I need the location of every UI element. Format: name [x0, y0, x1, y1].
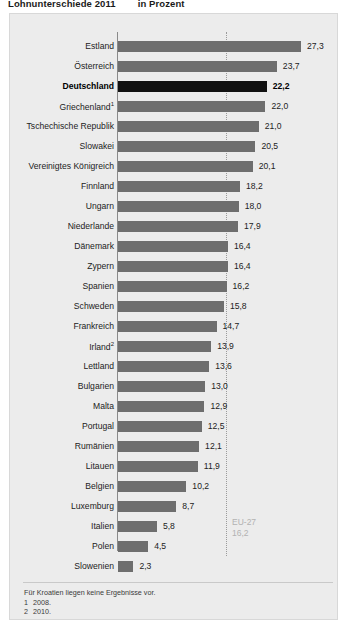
bar: [118, 481, 186, 492]
footnote-1-number: 1: [24, 598, 33, 608]
bar-value-label: 20,1: [259, 161, 276, 171]
bar-value-label: 15,8: [230, 301, 247, 311]
table-row: Dänemark16,4: [10, 236, 339, 256]
footnote-marker: 1: [111, 101, 114, 107]
plot-area: EU-27 16,2 Estland27,3Österreich23,7Deut…: [10, 14, 339, 562]
bar-value-label: 16,2: [233, 281, 250, 291]
bar: [118, 161, 253, 172]
bar: [118, 121, 259, 132]
bar-value-label: 21,0: [265, 121, 282, 131]
bar-value-label: 22,0: [271, 101, 288, 111]
table-row: Ungarn18,0: [10, 196, 339, 216]
bar-value-label: 13,9: [217, 341, 234, 351]
bar-category-label: Portugal: [82, 421, 114, 431]
bar-category-label: Irland2: [89, 341, 114, 352]
table-row: Italien5,8: [10, 516, 339, 536]
table-row: Portugal12,5: [10, 416, 339, 436]
bar-value-label: 11,9: [204, 461, 220, 471]
bar-value-label: 14,7: [223, 321, 240, 331]
bar-category-label: Schweden: [74, 301, 114, 311]
table-row: Finnland18,2: [10, 176, 339, 196]
footnotes-block: Für Kroatien liegen keine Ergebnisse vor…: [24, 588, 155, 617]
bar: [118, 41, 301, 52]
bar-value-label: 10,2: [192, 481, 209, 491]
bar-value-label: 27,3: [307, 41, 324, 51]
bar: [118, 381, 205, 392]
table-row: Frankreich14,7: [10, 316, 339, 336]
bar-value-label: 5,8: [163, 521, 175, 531]
title-unit-label: in Prozent: [138, 0, 185, 9]
bar-category-label: Slowakei: [80, 141, 114, 151]
bar-category-label: Litauen: [86, 461, 114, 471]
bar-category-label: Lettland: [83, 361, 114, 371]
bar-value-label: 13,6: [215, 361, 232, 371]
table-row: Tschechische Republik21,0: [10, 116, 339, 136]
bar: [118, 201, 239, 212]
bar-value-label: 17,9: [244, 221, 261, 231]
footnote-item-1: 12008.: [24, 598, 155, 608]
bar: [118, 181, 240, 192]
footnote-2-number: 2: [24, 607, 33, 617]
bar: [118, 101, 265, 112]
table-row: Schweden15,8: [10, 296, 339, 316]
bar: [118, 281, 227, 292]
bar-category-label: Italien: [91, 521, 114, 531]
footnote-1-text: 2008.: [33, 598, 51, 607]
table-row: Irland213,9: [10, 336, 339, 356]
bar-category-label: Bulgarien: [78, 381, 114, 391]
footnote-item-2: 22010.: [24, 607, 155, 617]
bar-value-label: 22,2: [273, 81, 290, 91]
bar: [118, 341, 211, 352]
table-row: Luxemburg8,7: [10, 496, 339, 516]
footer-divider: [23, 582, 333, 583]
bar: [118, 421, 202, 432]
bar-category-label: Tschechische Republik: [27, 121, 114, 131]
table-row: Slowenien2,3: [10, 556, 339, 576]
bar-value-label: 12,1: [205, 441, 222, 451]
bar-category-label: Spanien: [82, 281, 114, 291]
table-row: Slowakei20,5: [10, 136, 339, 156]
table-row: Niederlande17,9: [10, 216, 339, 236]
bar-category-label: Slowenien: [74, 561, 114, 571]
bar-category-label: Belgien: [85, 481, 114, 491]
table-row: Lettland13,6: [10, 356, 339, 376]
bar-category-label: Griechenland1: [60, 101, 114, 112]
bar-value-label: 18,2: [246, 181, 263, 191]
table-row: Vereinigtes Königreich20,1: [10, 156, 339, 176]
bar-value-label: 16,4: [234, 261, 251, 271]
chart-screenshot: Lohnunterschiede 2011 in Prozent EU-27 1…: [0, 0, 347, 633]
bar: [118, 501, 176, 512]
bar-category-label: Zypern: [87, 261, 114, 271]
table-row: Bulgarien13,0: [10, 376, 339, 396]
bar-category-label: Estland: [85, 41, 114, 51]
bar-category-label: Frankreich: [73, 321, 114, 331]
bar-value-label: 20,5: [261, 141, 278, 151]
bar: [118, 61, 277, 72]
bar-value-label: 4,5: [154, 541, 166, 551]
bar: [118, 561, 133, 572]
bar-value-label: 13,0: [211, 381, 228, 391]
bar: [118, 81, 267, 92]
bar: [118, 321, 217, 332]
bar: [118, 401, 204, 412]
footnote-2-text: 2010.: [33, 607, 51, 616]
bar-category-label: Österreich: [74, 61, 114, 71]
bar: [118, 241, 228, 252]
bar-category-label: Rumänien: [75, 441, 114, 451]
bar-value-label: 12,9: [210, 401, 227, 411]
table-row: Belgien10,2: [10, 476, 339, 496]
table-row: Litauen11,9: [10, 456, 339, 476]
bar: [118, 521, 157, 532]
chart-panel: EU-27 16,2 Estland27,3Österreich23,7Deut…: [9, 13, 338, 620]
bar-category-label: Vereinigtes Königreich: [28, 161, 114, 171]
bar: [118, 461, 198, 472]
bar: [118, 441, 199, 452]
table-row: Malta12,9: [10, 396, 339, 416]
footnote-note: Für Kroatien liegen keine Ergebnisse vor…: [24, 588, 155, 598]
bar-value-label: 18,0: [245, 201, 262, 211]
bar: [118, 301, 224, 312]
table-row: Rumänien12,1: [10, 436, 339, 456]
bar-value-label: 23,7: [283, 61, 300, 71]
table-row: Griechenland122,0: [10, 96, 339, 116]
table-row: Spanien16,2: [10, 276, 339, 296]
